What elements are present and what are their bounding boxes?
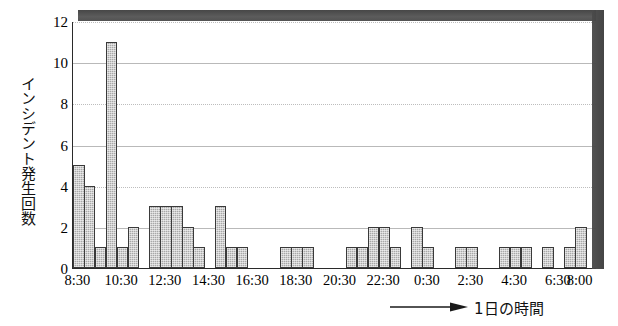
x-tick-label: 20:30 — [323, 272, 356, 288]
bar — [171, 206, 183, 268]
incident-frequency-chart: インシデント発生回数 024681012 8:3010:3012:3014:30… — [0, 0, 618, 326]
bar — [510, 247, 522, 268]
bar — [280, 247, 292, 268]
x-axis-caption: 1日の時間 — [390, 294, 544, 320]
x-tick-label: 10:30 — [105, 272, 138, 288]
y-axis-tick-labels: 024681012 — [38, 0, 68, 326]
x-tick-label: 0:30 — [414, 272, 440, 288]
bar — [73, 165, 85, 268]
y-axis-title: インシデント発生回数 — [14, 26, 40, 276]
bar — [564, 247, 576, 268]
bar — [422, 247, 434, 268]
bar — [379, 227, 391, 268]
x-tick-label: 16:30 — [236, 272, 269, 288]
bar — [542, 247, 554, 268]
x-axis-title: 1日の時間 — [474, 297, 544, 318]
x-tick-label: 18:30 — [279, 272, 312, 288]
bar — [117, 247, 129, 268]
x-tick-label: 2:30 — [458, 272, 484, 288]
bar — [84, 186, 96, 268]
plot-area — [72, 22, 596, 269]
bar — [302, 247, 314, 268]
bar — [106, 42, 118, 268]
x-tick-label: 22:30 — [367, 272, 400, 288]
bar — [466, 247, 478, 268]
y-tick-label: 10 — [38, 56, 68, 71]
bar — [215, 206, 227, 268]
bar — [411, 227, 423, 268]
bar — [128, 227, 140, 268]
bar — [499, 247, 511, 268]
x-tick-label: 8:00 — [567, 272, 593, 288]
bar — [149, 206, 161, 268]
y-tick-label: 0 — [38, 262, 68, 277]
bar — [95, 247, 107, 268]
bar — [193, 247, 205, 268]
right-arrow-icon — [390, 301, 468, 313]
y-tick-label: 8 — [38, 97, 68, 112]
x-tick-label: 4:30 — [501, 272, 527, 288]
scan-artifact-top-band — [78, 10, 596, 21]
bar — [455, 247, 467, 268]
y-tick-label: 12 — [38, 15, 68, 30]
bar — [390, 247, 402, 268]
bar — [346, 247, 358, 268]
bar — [368, 227, 380, 268]
bar — [357, 247, 369, 268]
bar-series — [73, 22, 596, 268]
bar — [160, 206, 172, 268]
x-tick-label: 8:30 — [65, 272, 91, 288]
x-tick-label: 14:30 — [192, 272, 225, 288]
bar — [291, 247, 303, 268]
bar — [182, 227, 194, 268]
x-tick-label: 12:30 — [148, 272, 181, 288]
bar — [226, 247, 238, 268]
bar — [237, 247, 249, 268]
y-tick-label: 4 — [38, 179, 68, 194]
bar — [575, 227, 587, 268]
y-tick-label: 2 — [38, 220, 68, 235]
x-axis-tick-labels: 8:3010:3012:3014:3016:3018:3020:3022:300… — [72, 272, 596, 294]
y-tick-label: 6 — [38, 138, 68, 153]
bar — [521, 247, 533, 268]
